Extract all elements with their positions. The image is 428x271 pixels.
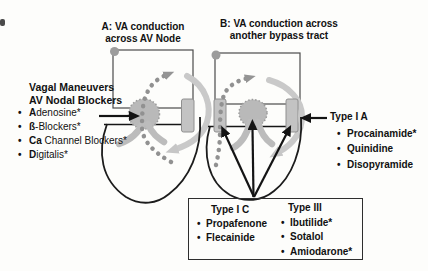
- bullet-icon: •: [18, 134, 29, 148]
- type-ic-heading: Type I C: [211, 203, 267, 217]
- drug-item-ca-channel-blockers: •Ca Channel Blockers*: [18, 134, 127, 148]
- bullet-icon: •: [281, 245, 290, 260]
- drug-item-flecainide: •Flecainide: [197, 231, 267, 245]
- panel-b-title: B: VA conduction across another bypass t…: [209, 18, 349, 41]
- av-nodal-blocker-list: •Adenosine* •ß-Blockers* •Ca Channel Blo…: [18, 106, 127, 162]
- retrograde-dotted-arrow-b: [216, 79, 246, 166]
- bullet-icon: •: [337, 157, 347, 172]
- bullet-icon: •: [18, 148, 29, 162]
- bullet-icon: •: [197, 231, 206, 245]
- type-iii-heading: Type III: [288, 201, 352, 216]
- bullet-icon: •: [18, 120, 29, 134]
- atria-outline-b: [215, 53, 300, 104]
- bypass-tract-icon-b-right: [286, 99, 298, 132]
- drug-item-amiodarone: •Amiodarone*: [281, 245, 352, 260]
- type-ia-heading: Type I A: [330, 110, 416, 123]
- drug-item-beta-blockers: •ß-Blockers*: [18, 120, 127, 134]
- bullet-icon: •: [281, 216, 290, 231]
- scan-artifact: [0, 19, 5, 26]
- bullet-icon: •: [281, 230, 290, 245]
- bypass-tract-icon-a: [182, 99, 195, 132]
- drug-item-procainamide: •Procainamide*: [337, 126, 416, 141]
- vagal-av-blockers-heading: Vagal Maneuvers AV Nodal Blockers: [29, 81, 122, 107]
- drug-item-disopyramide: •Disopyramide: [337, 157, 416, 172]
- type-iii-column: Type III •Ibutilide* •Sotalol •Amiodaron…: [281, 201, 352, 259]
- bundle-branch-right-a: [148, 124, 164, 142]
- drug-item-sotalol: •Sotalol: [281, 230, 352, 245]
- bullet-icon: •: [337, 126, 347, 141]
- sa-node-icon-b: [212, 51, 221, 60]
- box-target-arrow-middle: [253, 128, 254, 197]
- panel-b-title-line1: B: VA conduction across: [209, 18, 349, 30]
- type-ic-type-iii-box: Type I C •Propafenone •Flecainide Type I…: [188, 198, 363, 260]
- heading-line1: Vagal Maneuvers: [29, 81, 122, 94]
- sa-node-icon-a: [110, 47, 119, 56]
- figure-canvas: A: VA conduction across AV Node B: VA co…: [0, 0, 428, 271]
- drug-item-adenosine: •Adenosine*: [18, 106, 127, 120]
- type-ic-column: Type I C •Propafenone •Flecainide: [197, 203, 267, 245]
- drug-item-digitalis: •Digitalis*: [18, 148, 127, 162]
- drug-item-propafenone: •Propafenone: [197, 217, 267, 231]
- drug-item-ibutilide: •Ibutilide*: [281, 216, 352, 231]
- bullet-icon: •: [337, 141, 347, 156]
- bullet-icon: •: [18, 106, 29, 120]
- panel-b-title-line2: another bypass tract: [209, 30, 349, 42]
- bundle-branch-right-b: [258, 122, 272, 144]
- type-ia-panel: Type I A •Procainamide* •Quinidine •Diso…: [330, 110, 416, 172]
- panel-a-title-line2: across AV Node: [88, 33, 198, 45]
- panel-a-title-line1: A: VA conduction: [88, 21, 198, 33]
- drug-item-quinidine: •Quinidine: [337, 141, 416, 156]
- bullet-icon: •: [197, 217, 206, 231]
- panel-a-title: A: VA conduction across AV Node: [88, 21, 198, 44]
- atria-outline-a: [113, 50, 193, 108]
